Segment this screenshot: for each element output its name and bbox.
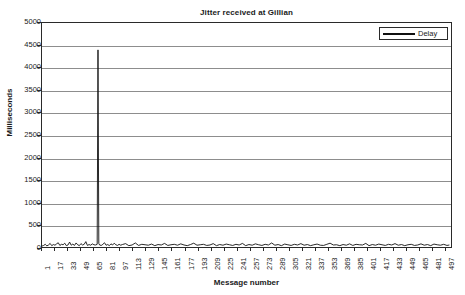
plot-area: Delay [41,22,452,248]
x-tick-mark [54,248,55,251]
x-tick-label: 97 [122,262,130,270]
x-tick-label: 177 [188,257,196,270]
y-tick-label: 4000 [7,63,41,71]
x-tick-mark [119,248,120,251]
x-tick-mark [132,248,133,251]
x-tick-mark [93,248,94,251]
y-tick-label: 500 [7,221,41,229]
y-tick-label: 1000 [7,199,41,207]
y-tick-label: 1500 [7,176,41,184]
x-tick-mark [380,248,381,251]
x-tick-label: 417 [383,257,391,270]
x-tick-mark [445,248,446,251]
legend-line-swatch [383,33,415,35]
x-tick-label: 257 [253,257,261,270]
x-tick-label: 241 [240,257,248,270]
x-axis: 1173349658197113129145161177193209225241… [41,248,452,278]
x-tick-label: 49 [83,262,91,270]
y-tick-label: 5000 [7,18,41,26]
x-tick-mark [106,248,107,251]
x-tick-mark [328,248,329,251]
x-tick-label: 385 [357,257,365,270]
y-tick-label: 0 [7,244,41,252]
x-tick-label: 1 [44,266,52,270]
x-tick-label: 433 [396,257,404,270]
x-tick-label: 289 [279,257,287,270]
legend: Delay [379,27,448,40]
x-tick-mark [276,248,277,251]
legend-label-delay: Delay [418,30,437,38]
x-tick-mark [211,248,212,251]
x-tick-mark [158,248,159,251]
x-tick-label: 81 [109,262,117,270]
x-tick-label: 305 [292,257,300,270]
x-tick-mark [224,248,225,251]
x-tick-mark [198,248,199,251]
x-tick-mark [354,248,355,251]
x-tick-label: 273 [266,257,274,270]
x-tick-label: 33 [70,262,78,270]
x-tick-mark [237,248,238,251]
x-tick-label: 337 [318,257,326,270]
x-tick-label: 465 [422,257,430,270]
x-tick-mark [419,248,420,251]
x-tick-label: 161 [174,257,182,270]
x-tick-mark [315,248,316,251]
x-tick-label: 145 [161,257,169,270]
series-delay [42,23,451,247]
y-axis: Milliseconds 500045004000350030002500200… [0,22,41,248]
x-tick-label: 353 [331,257,339,270]
x-tick-label: 321 [305,257,313,270]
x-tick-mark [302,248,303,251]
x-tick-mark [145,248,146,251]
x-tick-mark [171,248,172,251]
x-tick-mark [393,248,394,251]
x-tick-label: 209 [214,257,222,270]
x-tick-mark [289,248,290,251]
x-tick-label: 497 [448,257,456,270]
x-tick-label: 481 [435,257,443,270]
x-tick-mark [41,248,42,251]
jitter-chart: Jitter received at Gillian Milliseconds … [0,0,465,295]
x-tick-mark [367,248,368,251]
x-tick-label: 17 [57,262,65,270]
x-tick-label: 129 [148,257,156,270]
x-tick-label: 225 [227,257,235,270]
x-tick-label: 401 [370,257,378,270]
x-tick-label: 369 [344,257,352,270]
y-tick-label: 2000 [7,154,41,162]
x-tick-mark [185,248,186,251]
x-axis-label: Message number [41,278,452,287]
x-tick-mark [80,248,81,251]
x-tick-mark [67,248,68,251]
y-tick-label: 4500 [7,41,41,49]
x-tick-mark [250,248,251,251]
x-tick-label: 449 [409,257,417,270]
chart-title: Jitter received at Gillian [41,8,452,17]
x-tick-mark [263,248,264,251]
x-tick-label: 65 [96,262,104,270]
y-tick-label: 3500 [7,86,41,94]
y-tick-label: 2500 [7,131,41,139]
x-tick-mark [341,248,342,251]
y-tick-label: 3000 [7,108,41,116]
x-tick-label: 193 [201,257,209,270]
x-tick-label: 113 [135,258,143,270]
x-tick-mark [406,248,407,251]
x-tick-mark [432,248,433,251]
